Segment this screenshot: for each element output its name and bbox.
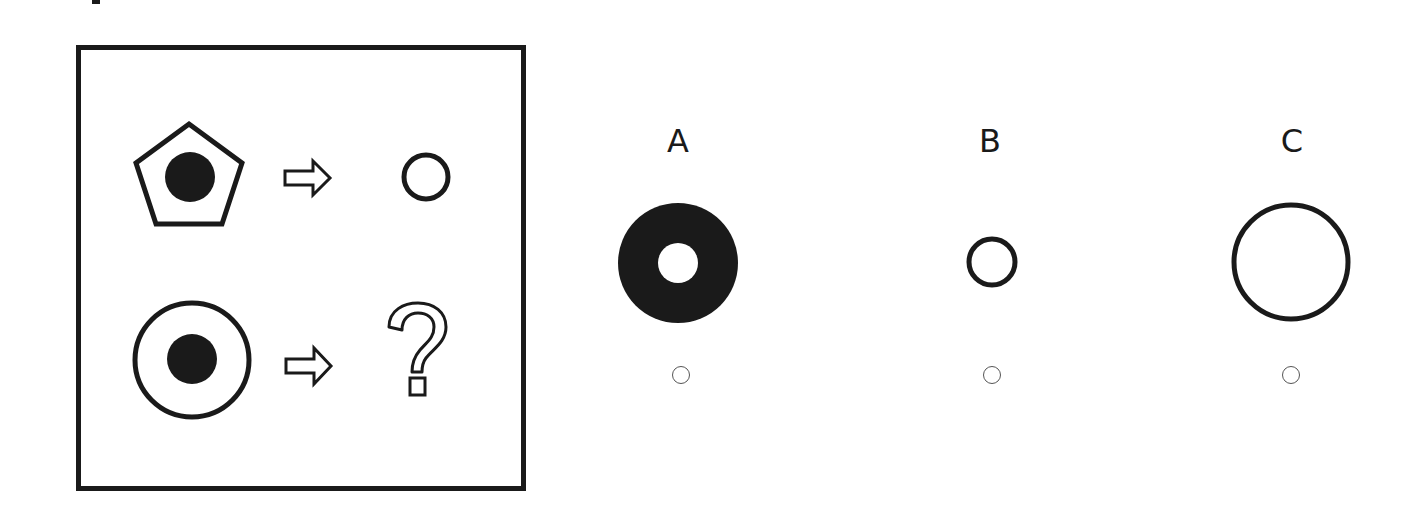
option-b-figure <box>969 239 1015 285</box>
option-c-figure <box>1234 205 1348 319</box>
option-c-radio[interactable] <box>1282 366 1300 384</box>
right-arrow-icon <box>285 161 330 195</box>
puzzle-figures <box>0 0 1418 507</box>
question-mark-icon <box>389 303 446 395</box>
option-a-radio[interactable] <box>672 366 690 384</box>
circle-with-dot-icon <box>135 303 249 417</box>
option-a-figure <box>618 203 738 323</box>
option-a-label: A <box>648 122 708 160</box>
pentagon-with-dot-icon <box>136 124 242 224</box>
option-b-label: B <box>960 122 1020 160</box>
option-c-label: C <box>1262 122 1322 160</box>
right-arrow-icon <box>286 348 331 384</box>
small-circle-icon <box>404 155 448 199</box>
option-b-radio[interactable] <box>983 366 1001 384</box>
